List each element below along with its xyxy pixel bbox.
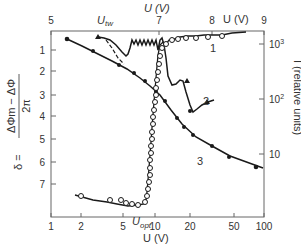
right-axis-label: I (relative units) [292,60,301,135]
left-tick-label: 4 [39,111,45,122]
chart-canvas: 1251020501005789123456710310210 [0,0,301,246]
left-tick-label: 5 [39,134,45,145]
left-tick-label: 1 [39,45,45,56]
curve-3 [65,37,263,170]
top-tick-label: 5 [48,15,54,26]
curve-1-label: 1 [210,42,216,54]
left-tick-label: 7 [39,179,45,190]
top-axis-label-center: U (V) [144,2,170,14]
bottom-axis-label: U (V) [143,232,169,244]
bottom-tick-label: 5 [120,221,126,232]
bottom-tick-label: 1 [48,221,54,232]
top-tick-label: 7 [156,15,162,26]
left-axis-label: δ = ΔΦm − ΔΦ 2π [5,74,32,170]
u-tw-label: Utw [97,14,114,28]
curve-1 [75,32,246,208]
svg-text:2π: 2π [20,99,32,113]
right-tick-label: 10 [269,149,281,160]
right-tick-label: 103 [269,38,284,50]
svg-text:ΔΦm − ΔΦ: ΔΦm − ΔΦ [5,79,17,133]
svg-text:δ =: δ = [12,154,24,170]
bottom-tick-label: 100 [256,221,273,232]
bottom-tick-label: 50 [228,221,240,232]
top-tick-label: 9 [261,15,267,26]
right-tick-label: 102 [269,93,284,105]
bottom-tick-label: 20 [184,221,196,232]
left-tick-label: 3 [39,90,45,101]
top-axis-label-right: U (V) [223,13,249,25]
curve-3-label: 3 [197,155,203,167]
curve-2-label: 2 [203,95,209,107]
top-tick-label: 8 [209,15,215,26]
svg-text:Utw: Utw [97,14,114,28]
left-tick-label: 2 [39,66,45,77]
bottom-tick-label: 10 [149,221,161,232]
left-tick-label: 6 [39,157,45,168]
bottom-tick-label: 2 [78,221,84,232]
